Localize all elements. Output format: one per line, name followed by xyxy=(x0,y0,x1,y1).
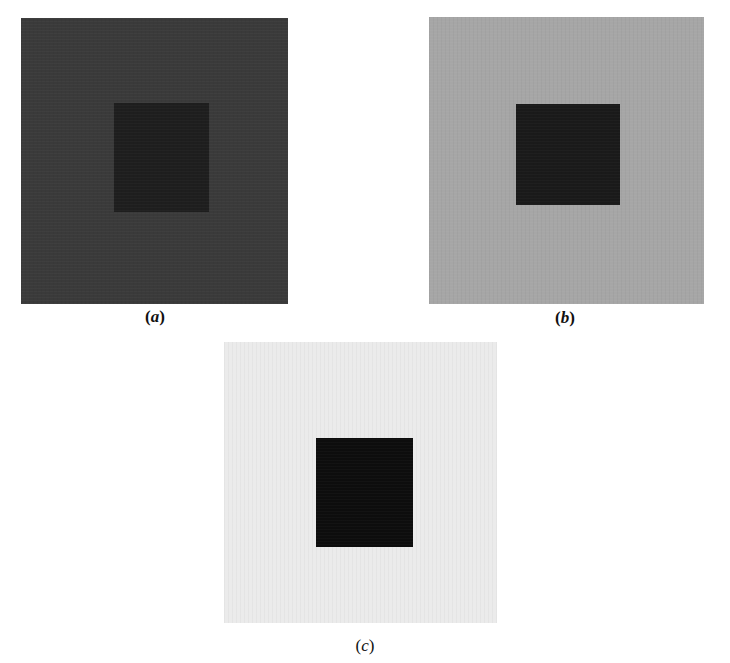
panel-b-background xyxy=(429,17,704,304)
caption-a-letter: a xyxy=(151,307,160,326)
caption-b: (b) xyxy=(535,308,595,328)
caption-c-letter: c xyxy=(361,636,369,655)
caption-b-letter: b xyxy=(561,308,570,327)
caption-c: (c) xyxy=(335,636,395,656)
caption-a-close: ) xyxy=(159,307,165,326)
panel-b-center-square xyxy=(516,104,620,205)
caption-b-close: ) xyxy=(569,308,575,327)
panel-a-background xyxy=(21,18,288,304)
caption-c-close: ) xyxy=(369,636,375,655)
panel-c-background xyxy=(224,342,497,623)
panel-a-center-square xyxy=(114,103,209,212)
panel-c-center-square xyxy=(316,438,413,547)
caption-a: (a) xyxy=(125,307,185,327)
